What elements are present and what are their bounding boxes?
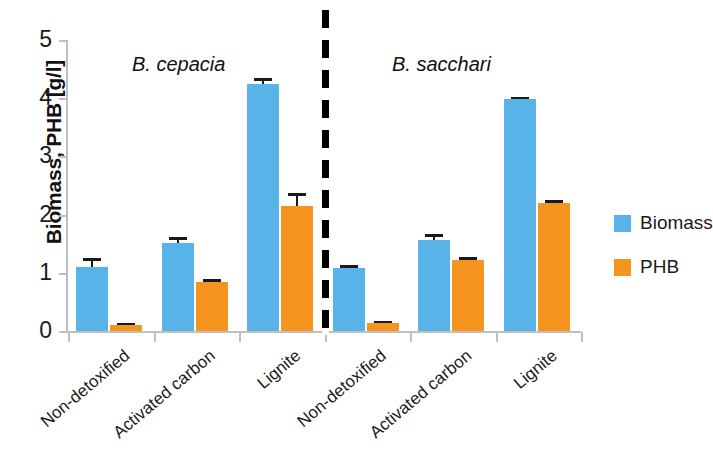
legend-swatch-phb [614,259,631,276]
y-axis-tick-label: 4 [22,86,52,109]
bar-group [410,40,496,331]
bar-phb [367,323,399,331]
y-axis-tick-label: 0 [22,319,52,342]
bar-biomass [504,99,536,331]
y-axis-tick-label: 3 [22,144,52,167]
bar-group [68,40,154,331]
legend-swatch-biomass [614,215,631,232]
y-axis-tick-label: 1 [22,261,52,284]
bar-phb [452,260,484,331]
y-axis-tick [59,156,67,158]
x-axis-tick [581,332,583,342]
x-axis-tick [410,332,412,342]
legend: BiomassPHB [614,212,713,300]
y-axis-tick [59,40,67,42]
bar-phb [538,203,570,331]
species-divider-dashed-line [322,10,329,335]
x-axis-tick [154,332,156,342]
bar-biomass [76,267,108,331]
legend-item: Biomass [614,212,713,234]
bar-phb [110,325,142,331]
bar-phb [196,282,228,331]
bar-biomass [247,84,279,331]
bar-group [154,40,240,331]
y-axis-tick [59,215,67,217]
legend-item: PHB [614,256,713,278]
x-axis-tick [68,332,70,342]
bar-group [325,40,411,331]
x-axis-tick [496,332,498,342]
bar-biomass [162,243,194,331]
bar-group [496,40,582,331]
bar-group [239,40,325,331]
bar-biomass [333,268,365,331]
species-label-sacchari: B. sacchari [392,53,491,76]
bar-phb [281,206,313,331]
legend-label: Biomass [640,212,713,234]
x-axis-tick [239,332,241,342]
legend-label: PHB [640,256,679,278]
y-axis-tick [59,98,67,100]
y-axis-tick [59,273,67,275]
species-label-cepacia: B. cepacia [132,53,225,76]
y-axis-tick-label: 5 [22,28,52,51]
bar-biomass [418,240,450,331]
y-axis-tick-label: 2 [22,203,52,226]
y-axis-tick [59,331,67,333]
